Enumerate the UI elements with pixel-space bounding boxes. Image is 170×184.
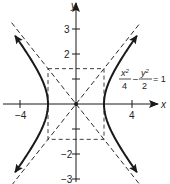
eq-y-numerator: y2 — [140, 68, 150, 78]
y-tick-label: 2 — [64, 49, 70, 60]
eq-x-numerator: x2 — [120, 68, 130, 78]
x-tick-label: −4 — [15, 110, 27, 121]
equation-label: x2 4 – y2 2 = 1 — [119, 68, 166, 91]
eq-minus: – — [133, 74, 138, 84]
y-axis-label: y — [70, 0, 77, 11]
eq-x-denominator: 4 — [122, 81, 127, 91]
y-tick-label: 3 — [64, 24, 70, 35]
hyperbola-branch — [15, 36, 48, 104]
y-tick-label: −3 — [61, 174, 73, 184]
y-tick-label: −2 — [61, 149, 73, 160]
eq-rhs: = 1 — [153, 74, 166, 84]
x-axis-label: x — [160, 99, 167, 110]
origin-point — [74, 102, 78, 106]
hyperbola-diagram: −4432−2−3 x y x2 4 – y2 2 = 1 — [0, 0, 170, 184]
eq-y-denominator: 2 — [142, 81, 147, 91]
x-tick-label: 4 — [129, 110, 135, 121]
